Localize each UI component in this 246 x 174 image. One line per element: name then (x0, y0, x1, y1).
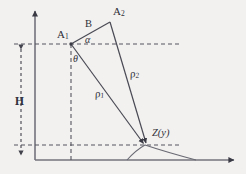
ray-rho2 (110, 22, 146, 143)
diagram-canvas: A1 A2 B α θ ρ1 ρ2 H Z(y) (0, 0, 246, 174)
label-alpha: α (85, 35, 90, 45)
geometry-figure (0, 0, 246, 174)
label-rho2: ρ2 (129, 67, 140, 80)
vertex-a1-dot (69, 42, 72, 45)
label-baseline-b: B (85, 19, 92, 30)
triangle-edges (71, 22, 146, 144)
terrain-hump-curve (127, 145, 196, 160)
ray-rho1 (71, 44, 144, 144)
label-height: H (15, 96, 24, 108)
guide-lines (14, 44, 180, 160)
label-theta: θ (73, 54, 78, 64)
label-a2: A2 (113, 6, 125, 18)
label-target-z: Z(y) (152, 128, 170, 139)
label-a1: A1 (57, 29, 69, 41)
label-rho1: ρ1 (94, 87, 105, 100)
